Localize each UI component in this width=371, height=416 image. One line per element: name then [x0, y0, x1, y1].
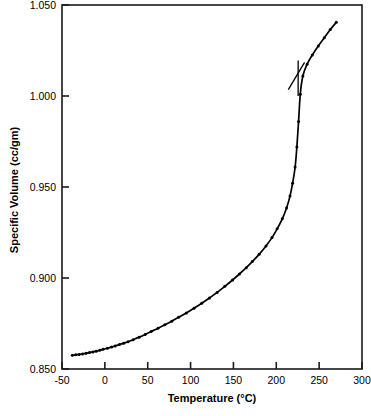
- data-point: [299, 93, 302, 96]
- x-tick-label: 0: [102, 374, 108, 386]
- plot-canvas: [0, 0, 371, 416]
- data-point: [132, 338, 135, 341]
- x-tick-label: -50: [54, 374, 69, 386]
- y-tick-label: 1.000: [8, 90, 56, 102]
- x-tick-label: 50: [142, 374, 154, 386]
- x-tick-label: 250: [310, 374, 328, 386]
- data-point: [323, 36, 326, 39]
- data-point: [285, 206, 288, 209]
- data-point: [138, 336, 141, 339]
- data-point: [71, 354, 74, 357]
- data-point: [170, 320, 173, 323]
- x-tick-marks: [62, 362, 362, 369]
- data-point: [301, 74, 304, 77]
- data-point: [297, 120, 300, 123]
- data-point: [193, 307, 196, 310]
- data-point: [98, 349, 101, 352]
- data-point: [185, 311, 188, 314]
- y-tick-marks: [62, 5, 69, 369]
- data-point: [317, 44, 320, 47]
- data-point: [91, 350, 94, 353]
- data-point: [122, 342, 125, 345]
- data-point: [106, 347, 109, 350]
- y-tick-label: 1.050: [8, 0, 56, 11]
- data-point: [163, 323, 166, 326]
- data-curve: [72, 22, 336, 355]
- axes-frame: [62, 5, 362, 369]
- data-point: [78, 353, 81, 356]
- data-point: [265, 244, 268, 247]
- data-point: [88, 351, 91, 354]
- x-tick-label: 100: [182, 374, 200, 386]
- data-point: [157, 327, 160, 330]
- data-point: [102, 348, 105, 351]
- x-tick-label: 150: [225, 374, 243, 386]
- plot-frame: [62, 5, 362, 369]
- data-point: [289, 195, 292, 198]
- data-point: [329, 28, 332, 31]
- x-axis-title: Temperature (°C): [62, 392, 362, 404]
- x-tick-label: 300: [353, 374, 371, 386]
- data-point: [85, 352, 88, 355]
- data-point: [127, 340, 130, 343]
- data-point: [114, 344, 117, 347]
- data-point: [74, 353, 77, 356]
- data-point: [110, 345, 113, 348]
- data-point: [281, 217, 284, 220]
- data-point: [144, 333, 147, 336]
- x-tick-label: 200: [268, 374, 286, 386]
- data-point: [81, 352, 84, 355]
- data-point: [251, 260, 254, 263]
- data-point: [258, 253, 261, 256]
- data-point: [294, 165, 297, 168]
- data-point: [311, 54, 314, 57]
- data-point: [216, 291, 219, 294]
- data-point: [245, 266, 248, 269]
- y-tick-label: 0.850: [8, 363, 56, 375]
- data-point: [291, 182, 294, 185]
- data-point: [231, 279, 234, 282]
- data-point: [95, 350, 98, 353]
- data-point: [208, 297, 211, 300]
- data-point: [118, 343, 121, 346]
- y-tick-label: 0.900: [8, 272, 56, 284]
- data-point: [306, 63, 309, 66]
- data-point: [271, 236, 274, 239]
- chart-figure: Specific Volume (cc/gm) Temperature (°C)…: [0, 0, 371, 416]
- y-tick-label: 0.950: [8, 181, 56, 193]
- data-point: [335, 21, 338, 24]
- data-point: [238, 273, 241, 276]
- data-point: [200, 302, 203, 305]
- data-point: [276, 227, 279, 230]
- data-point: [295, 145, 298, 148]
- data-point: [223, 285, 226, 288]
- data-point: [177, 316, 180, 319]
- data-point: [150, 330, 153, 333]
